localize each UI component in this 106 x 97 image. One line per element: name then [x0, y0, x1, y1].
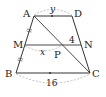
ad-midpoint-dot: [51, 15, 53, 17]
label-B: B: [5, 68, 12, 79]
label-N: N: [84, 39, 93, 50]
bc-midpoint-dot: [49, 72, 51, 74]
label-P: P: [54, 49, 61, 60]
label-A: A: [22, 8, 31, 19]
label-D: D: [74, 8, 82, 19]
measure-PN: 4: [69, 35, 75, 45]
label-M: M: [13, 39, 23, 50]
measure-BC: 16: [46, 78, 58, 88]
measure-AD: y: [49, 4, 56, 14]
trapezoid-diagram: A D M N P B C y x 4 16: [0, 0, 106, 97]
label-C: C: [92, 68, 100, 79]
diagonal-AC: [34, 16, 90, 73]
measure-MP: x: [40, 47, 45, 57]
